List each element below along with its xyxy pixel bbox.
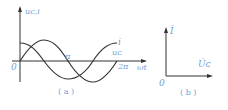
- y-axis-label: uᴄ,i: [25, 8, 40, 16]
- curve-uc-label: uᴄ: [112, 49, 122, 57]
- phasor-uc-arrow-icon: [207, 74, 213, 78]
- tick-pi: π: [65, 53, 70, 61]
- caption-b: ( b ): [180, 89, 196, 97]
- origin-label-b: 0: [159, 79, 165, 88]
- caption-a: ( a ): [58, 88, 74, 96]
- x-axis-label: ωt: [137, 64, 147, 72]
- phasor-uc-label: U̇ᴄ: [198, 60, 211, 69]
- curve-i-label: i: [118, 38, 121, 47]
- tick-2pi: 2π: [118, 63, 128, 71]
- y-axis-arrow-icon: [18, 6, 22, 12]
- phasor-i-label: İ: [170, 27, 174, 36]
- phasor-i-arrow-icon: [164, 27, 168, 33]
- origin-label-a: 0: [11, 63, 17, 72]
